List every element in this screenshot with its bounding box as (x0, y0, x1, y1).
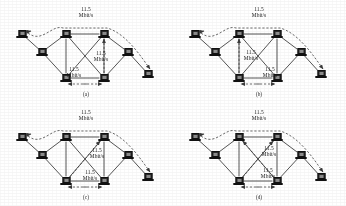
figure-panel-grid: 11.5Mbit/s11.5Mbit/s11.5Mbit/s(a)11.5Mbi… (0, 0, 346, 206)
node-west-inner (37, 48, 48, 56)
computer-icon (38, 48, 46, 54)
network-topology-panel-d: 11.5Mbit/s11.5Mbit/s11.5Mbit/s(d) (173, 103, 346, 206)
link-core-bottom-right-to-east-inner (107, 56, 124, 75)
computer-icon (62, 177, 70, 183)
computer-base (190, 36, 201, 38)
bandwidth-unit: Mbit/s (94, 56, 108, 62)
node-east-outer (316, 70, 327, 78)
bandwidth-bottom-diagonal-flow-label: 11.5Mbit/s (263, 66, 277, 78)
computer-base (143, 76, 154, 78)
node-west-inner (37, 151, 48, 159)
computer-base (123, 157, 134, 159)
link-core-bottom-right-to-east-inner (107, 159, 124, 178)
computer-base (234, 183, 245, 185)
bandwidth-unit: Mbit/s (79, 12, 93, 18)
computer-icon (317, 173, 325, 179)
computer-base (17, 139, 28, 141)
computer-base (61, 139, 72, 141)
node-east-outer (316, 173, 327, 181)
node-core-top-left (234, 133, 245, 141)
computer-base (296, 157, 307, 159)
network-topology-panel-c: 11.5Mbit/s11.5Mbit/s11.5Mbit/s(c) (0, 103, 173, 206)
computer-base (234, 80, 245, 82)
computer-base (37, 54, 48, 56)
node-core-bottom-left (234, 177, 245, 185)
node-core-top-right (99, 30, 110, 38)
bandwidth-unit: Mbit/s (252, 12, 266, 18)
node-west-outer (17, 133, 28, 141)
node-core-bottom-right (99, 177, 110, 185)
computer-base (123, 54, 134, 56)
bandwidth-unit: Mbit/s (262, 151, 276, 157)
computer-base (272, 36, 283, 38)
node-core-top-left (61, 133, 72, 141)
computer-icon (235, 30, 243, 36)
computer-icon (62, 30, 70, 36)
bandwidth-unit: Mbit/s (244, 55, 258, 61)
computer-icon (38, 151, 46, 157)
link-core-bottom-right-to-east-inner (280, 56, 297, 75)
link-west-inner-to-core-top-left (46, 140, 62, 152)
computer-icon (235, 177, 243, 183)
computer-base (99, 36, 110, 38)
link-west-outer-to-west-inner (199, 140, 212, 151)
bandwidth-top-flow-label: 11.5Mbit/s (79, 6, 93, 18)
computer-icon (297, 48, 305, 54)
bandwidth-unit: Mbit/s (67, 72, 81, 78)
computer-icon (273, 30, 281, 36)
computer-icon (235, 133, 243, 139)
computer-base (210, 54, 221, 56)
computer-icon (273, 133, 281, 139)
bandwidth-top-flow-label: 11.5Mbit/s (252, 6, 266, 18)
computer-base (316, 179, 327, 181)
node-west-inner (210, 48, 221, 56)
bandwidth-unit: Mbit/s (263, 72, 277, 78)
bandwidth-bottom-flow-label: 11.5Mbit/s (67, 66, 81, 78)
bandwidth-unit: Mbit/s (83, 175, 97, 181)
node-core-bottom-right (99, 74, 110, 82)
node-core-top-right (99, 133, 110, 141)
computer-icon (100, 30, 108, 36)
node-east-outer (143, 70, 154, 78)
bandwidth-upper-diagonal-flow-label: 11.5Mbit/s (262, 145, 276, 157)
link-west-inner-to-core-top-left (46, 37, 62, 49)
computer-base (272, 80, 283, 82)
link-west-inner-to-core-bottom-left (218, 56, 235, 75)
computer-base (272, 183, 283, 185)
computer-icon (191, 133, 199, 139)
computer-icon (100, 177, 108, 183)
computer-base (61, 80, 72, 82)
node-west-outer (17, 30, 28, 38)
node-east-inner (296, 151, 307, 159)
computer-icon (100, 74, 108, 80)
computer-base (234, 139, 245, 141)
computer-icon (124, 151, 132, 157)
computer-base (234, 36, 245, 38)
computer-base (210, 157, 221, 159)
computer-base (61, 183, 72, 185)
panel-caption-c: (c) (83, 194, 89, 200)
link-core-bottom-right-to-east-inner (280, 159, 297, 178)
node-core-top-left (61, 30, 72, 38)
bandwidth-left-vertical-flow-label: 11.5Mbit/s (244, 49, 258, 61)
computer-icon (100, 133, 108, 139)
computer-icon (317, 70, 325, 76)
computer-base (272, 139, 283, 141)
computer-icon (191, 30, 199, 36)
bandwidth-lower-diagonal-flow-label: 11.5Mbit/s (261, 167, 275, 179)
computer-icon (297, 151, 305, 157)
link-west-inner-to-core-top-left (219, 37, 235, 49)
bandwidth-unit: Mbit/s (252, 115, 266, 121)
node-east-inner (123, 48, 134, 56)
node-west-outer (190, 30, 201, 38)
computer-base (99, 139, 110, 141)
link-east-inner-to-east-outer (131, 159, 144, 174)
computer-icon (144, 173, 152, 179)
bandwidth-unit: Mbit/s (79, 115, 93, 121)
bandwidth-top-flow-label: 11.5Mbit/s (252, 109, 266, 121)
computer-base (61, 36, 72, 38)
computer-base (296, 54, 307, 56)
computer-icon (124, 48, 132, 54)
link-west-inner-to-core-bottom-left (218, 159, 235, 178)
link-west-outer-to-west-inner (26, 140, 39, 151)
